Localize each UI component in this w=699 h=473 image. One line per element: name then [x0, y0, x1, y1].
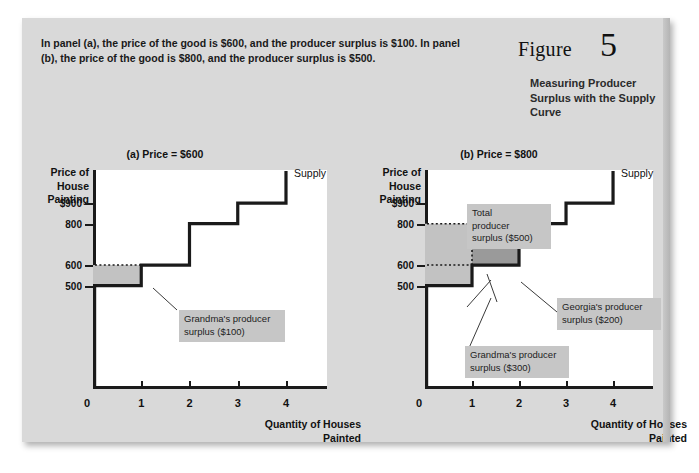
panel-b-xtick-3 [566, 381, 568, 389]
panel-a-xtick-label-1: 1 [138, 397, 144, 409]
panel-b-title: (b) Price = $800 [338, 148, 660, 160]
panel-a-plot-area: Price of House Painting Quantity of Hous… [93, 170, 327, 389]
panel-a-leader-0 [153, 288, 177, 310]
panel-a-ytick-500 [85, 286, 93, 288]
panel-a-title: (a) Price = $600 [0, 148, 330, 160]
panel-b-xtick-label-1: 1 [469, 397, 475, 409]
panel-b-xtick-1 [472, 381, 474, 389]
panel-b-leader-2 [521, 282, 557, 312]
panel-a-xtick-4 [286, 381, 288, 389]
panel-b-supply-label: Supply [621, 167, 653, 179]
panel-a-ytick-label-600: 600 [65, 260, 82, 271]
panel-a-xtick-label-2: 2 [186, 397, 192, 409]
panel-b-xtick-label-0: 0 [416, 397, 422, 409]
panel-a-ytick-900 [85, 203, 93, 205]
panel-b-ytick-500 [417, 286, 425, 288]
panel-a-grandma-surplus-callout: Grandma's producer surplus ($100) [179, 310, 285, 342]
panel-b-xtick-label-4: 4 [610, 397, 616, 409]
panel-b-plot-area: Price of House Painting Quantity of Hous… [425, 170, 653, 389]
panel-a-xtick-label-3: 3 [235, 397, 241, 409]
panel-a-ytick-600 [85, 265, 93, 267]
panel-b-xtick-2 [519, 381, 521, 389]
panel-b-ytick-label-800: 800 [397, 218, 414, 229]
panel-b-ytick-label-600: 600 [397, 260, 414, 271]
panel-b-xtick-label-2: 2 [516, 397, 522, 409]
panel-a-xtick-3 [238, 381, 240, 389]
panel-b-xtick-label-3: 3 [563, 397, 569, 409]
panel-b-georgia-surplus-callout: Georgia's producer surplus ($200) [557, 298, 661, 330]
panel-b-total-surplus-callout: Total producer surplus ($500) [467, 204, 551, 249]
panel-a-ytick-800 [85, 224, 93, 226]
figure-card: In panel (a), the price of the good is $… [22, 18, 670, 442]
panel-a-ytick-label-500: 500 [65, 280, 82, 291]
panel-b-grandma-surplus-callout: Grandma's producer surplus ($300) [465, 346, 569, 378]
panel-b-xtick-4 [613, 381, 615, 389]
panel-a-supply-curve-group [93, 170, 327, 389]
panel-a-xtick-2 [189, 381, 191, 389]
panel-a-supply-label: Supply [294, 167, 326, 179]
panel-a-xtick-1 [141, 381, 143, 389]
panel-a-xtick-label-0: 0 [84, 397, 90, 409]
panel-a-xtick-label-4: 4 [283, 397, 289, 409]
panel-b: (b) Price = $800 Price of House Painting… [348, 18, 670, 442]
panel-b-leader-3 [469, 298, 491, 348]
panel-a-x-axis-title: Quantity of Houses Painted [241, 418, 361, 445]
panel-a: (a) Price = $600 Price of House Painting… [22, 18, 352, 442]
panel-a-ytick-label-800: 800 [65, 218, 82, 229]
panel-b-ytick-900 [417, 203, 425, 205]
panel-b-ytick-label-900: $900 [392, 198, 414, 209]
panel-b-ytick-label-500: 500 [397, 280, 414, 291]
panel-b-leader-1 [487, 274, 497, 302]
panel-a-ytick-label-900: $900 [60, 198, 82, 209]
panel-b-ytick-800 [417, 224, 425, 226]
panel-b-x-axis-title: Quantity of Houses Painted [567, 418, 687, 445]
panel-b-ytick-600 [417, 265, 425, 267]
panel-a-region-grandma-surplus [93, 265, 141, 286]
panel-b-region-grandma-surplus [425, 224, 472, 286]
